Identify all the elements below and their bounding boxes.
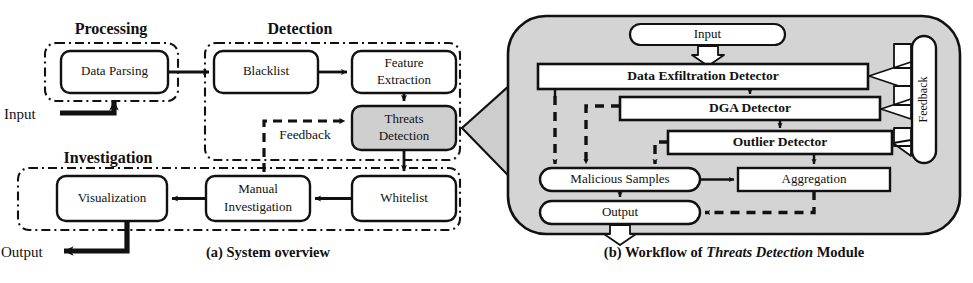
node-b-input[interactable]: Input	[630, 24, 785, 45]
node-a-manual-investigation[interactable]: Manual Investigation	[206, 176, 310, 221]
group-investigation-title: Investigation	[64, 149, 153, 167]
node-a-data-parsing[interactable]: Data Parsing	[61, 51, 168, 93]
caption-panel-b: (b) Workflow of Threats Detection Module	[604, 244, 865, 261]
node-a-threats-detection-label-line1: Threats	[385, 111, 424, 126]
node-a-blacklist[interactable]: Blacklist	[214, 51, 318, 93]
figure-root: Input Data Exfiltration Detector DGA Det…	[0, 0, 973, 283]
system-architecture-diagram: Input Data Exfiltration Detector DGA Det…	[0, 0, 973, 283]
panel-b: Input Data Exfiltration Detector DGA Det…	[508, 16, 960, 245]
node-a-blacklist-label: Blacklist	[243, 63, 290, 78]
node-b-aggregation[interactable]: Aggregation	[738, 168, 890, 191]
node-b-dga-detector-label: DGA Detector	[709, 100, 791, 115]
node-a-whitelist[interactable]: Whitelist	[352, 176, 456, 221]
node-b-data-exfiltration-detector-label: Data Exfiltration Detector	[627, 68, 778, 83]
node-b-aggregation-label: Aggregation	[782, 171, 847, 186]
caption-panel-a: (a) System overview	[206, 244, 331, 261]
node-a-threats-detection-label-line2: Detection	[379, 128, 430, 143]
node-a-feature-extraction-label-line2: Extraction	[377, 72, 432, 87]
node-b-feedback-label: Feedback	[916, 77, 930, 123]
io-input-label: Input	[4, 106, 36, 122]
node-b-output-label: Output	[602, 204, 639, 219]
node-b-malicious-samples[interactable]: Malicious Samples	[540, 168, 700, 191]
node-a-whitelist-label: Whitelist	[380, 190, 428, 205]
caption-panel-b-prefix: (b) Workflow of	[604, 244, 706, 261]
node-a-feature-extraction-label-line1: Feature	[385, 55, 424, 70]
node-a-visualization-label: Visualization	[78, 190, 147, 205]
edge-a-feedback-label: Feedback	[279, 127, 331, 142]
caption-panel-b-suffix: Module	[813, 244, 865, 260]
node-a-visualization[interactable]: Visualization	[57, 176, 167, 221]
node-b-input-label: Input	[694, 26, 722, 41]
node-a-data-parsing-label: Data Parsing	[81, 63, 148, 78]
node-a-manual-investigation-label-line1: Manual	[238, 181, 278, 196]
node-a-feature-extraction[interactable]: Feature Extraction	[352, 51, 456, 93]
node-a-threats-detection[interactable]: Threats Detection	[352, 106, 456, 150]
node-b-dga-detector[interactable]: DGA Detector	[620, 97, 880, 120]
node-b-outlier-detector[interactable]: Outlier Detector	[668, 131, 892, 154]
io-output-label: Output	[1, 244, 44, 260]
group-processing-title: Processing	[75, 20, 148, 38]
node-a-manual-investigation-label-line2: Investigation	[224, 199, 292, 214]
node-b-malicious-samples-label: Malicious Samples	[570, 171, 669, 186]
group-detection-title: Detection	[268, 20, 333, 37]
node-b-feedback[interactable]: Feedback	[912, 36, 936, 163]
node-b-data-exfiltration-detector[interactable]: Data Exfiltration Detector	[538, 64, 868, 89]
node-b-outlier-detector-label: Outlier Detector	[733, 134, 828, 149]
caption-panel-b-italic: Threats Detection	[706, 244, 813, 260]
node-b-output[interactable]: Output	[540, 201, 700, 224]
